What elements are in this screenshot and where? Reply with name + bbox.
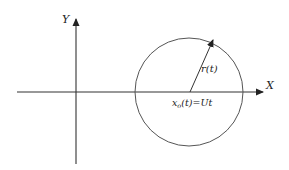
center-label-rest: (t)=Ut — [181, 97, 212, 108]
radius-label: r(t) — [201, 63, 218, 74]
x-axis-label: X — [265, 79, 275, 92]
y-axis-label: Y — [62, 13, 71, 26]
diagram-canvas: Y X r(t) xo(t)=Ut — [0, 0, 289, 170]
center-position-label: xo(t)=Ut — [172, 97, 212, 110]
